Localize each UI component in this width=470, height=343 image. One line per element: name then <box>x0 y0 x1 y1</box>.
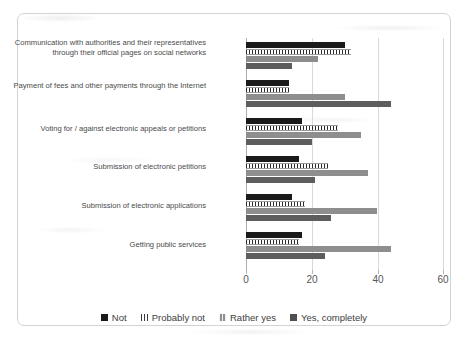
legend-swatch-icon-yes-completely <box>290 314 297 321</box>
bar-not-0 <box>246 42 345 48</box>
legend-swatch-icon-not <box>101 314 108 321</box>
bar-rather-yes-1 <box>246 94 345 100</box>
bar-group-2 <box>246 118 444 146</box>
bar-rather-yes-0 <box>246 56 318 62</box>
plot-area <box>246 38 444 270</box>
category-label-1: Payment of fees and other payments throu… <box>8 81 206 91</box>
xtick-label-0: 0 <box>243 274 249 285</box>
category-label-0: Communication with authorities and their… <box>8 38 206 58</box>
legend-item-not: Not <box>101 312 127 323</box>
legend-item-rather-yes: Rather yes <box>219 312 276 323</box>
bar-yes-completely-3 <box>246 177 315 183</box>
legend-swatch-icon-rather-yes <box>219 314 226 321</box>
chart-container: Communication with authorities and their… <box>17 13 451 326</box>
bar-probably-not-2 <box>246 125 338 131</box>
legend-item-probably-not: Probably not <box>141 312 205 323</box>
bar-group-0 <box>246 42 444 70</box>
bar-rather-yes-5 <box>246 246 391 252</box>
bar-probably-not-0 <box>246 49 351 55</box>
legend-label-probably-not: Probably not <box>152 312 205 323</box>
bar-yes-completely-4 <box>246 215 331 221</box>
bar-group-4 <box>246 194 444 222</box>
bar-group-5 <box>246 232 444 260</box>
category-label-2: Voting for / against electronic appeals … <box>8 124 206 134</box>
bar-group-3 <box>246 156 444 184</box>
bar-probably-not-1 <box>246 87 289 93</box>
xtick-label-20: 20 <box>306 274 317 285</box>
bar-not-2 <box>246 118 302 124</box>
bar-yes-completely-0 <box>246 63 292 69</box>
chart-legend: Not Probably not Rather yes Yes, complet… <box>18 312 450 323</box>
bar-probably-not-5 <box>246 239 299 245</box>
bar-probably-not-3 <box>246 163 328 169</box>
category-label-3: Submission of electronic petitions <box>8 162 206 172</box>
legend-label-rather-yes: Rather yes <box>230 312 276 323</box>
category-label-4: Submission of electronic applications <box>8 201 206 211</box>
bar-rather-yes-3 <box>246 170 368 176</box>
legend-swatch-icon-probably-not <box>141 314 148 321</box>
bar-probably-not-4 <box>246 201 305 207</box>
bar-yes-completely-1 <box>246 101 391 107</box>
legend-label-not: Not <box>112 312 127 323</box>
bar-group-1 <box>246 80 444 108</box>
bar-rather-yes-2 <box>246 132 361 138</box>
bar-yes-completely-2 <box>246 139 312 145</box>
bar-rather-yes-4 <box>246 208 377 214</box>
bar-not-5 <box>246 232 302 238</box>
legend-label-yes-completely: Yes, completely <box>301 312 367 323</box>
bar-not-4 <box>246 194 292 200</box>
x-axis: 0 20 40 60 <box>246 270 444 290</box>
bar-yes-completely-5 <box>246 253 325 259</box>
bar-not-1 <box>246 80 289 86</box>
legend-item-yes-completely: Yes, completely <box>290 312 367 323</box>
category-label-5: Getting public services <box>8 240 206 250</box>
xtick-label-40: 40 <box>372 274 383 285</box>
xtick-label-60: 60 <box>437 274 448 285</box>
bar-not-3 <box>246 156 299 162</box>
